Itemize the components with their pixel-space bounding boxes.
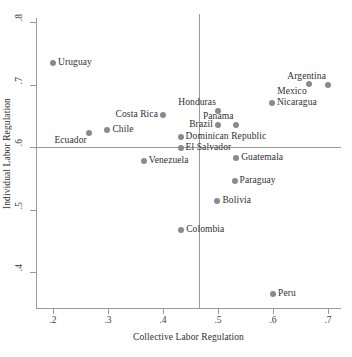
- x-axis-line: [36, 308, 341, 309]
- y-axis-title: Individual Labor Regulation: [0, 0, 14, 308]
- data-point[interactable]: [270, 291, 276, 297]
- data-point-label: Ecuador: [54, 135, 86, 145]
- data-point-label: Dominican Republic: [186, 131, 267, 141]
- x-tick-mark: [53, 309, 54, 314]
- data-point-label: Bolivia: [222, 195, 251, 205]
- data-point[interactable]: [50, 60, 56, 66]
- x-tick-label: .3: [98, 315, 118, 325]
- x-tick-mark: [108, 309, 109, 314]
- y-tick-label: .7: [14, 77, 30, 84]
- data-point[interactable]: [160, 112, 166, 118]
- y-tick-label: .4: [14, 264, 30, 271]
- x-tick-label: .6: [263, 315, 283, 325]
- x-tick-label: .7: [318, 315, 338, 325]
- y-tick-mark: [30, 272, 36, 273]
- data-point-label: Argentina: [287, 71, 326, 81]
- data-point-label: Uruguay: [58, 57, 92, 67]
- x-axis-title: Collective Labor Regulation: [36, 332, 341, 342]
- y-tick-label: .8: [14, 14, 30, 21]
- y-tick-mark: [30, 22, 36, 23]
- y-tick-mark: [30, 85, 36, 86]
- data-point-label: Honduras: [178, 97, 216, 107]
- data-point[interactable]: [178, 134, 184, 140]
- x-tick-mark: [273, 309, 274, 314]
- data-point-label: Nicaragua: [277, 97, 317, 107]
- x-tick-label: .2: [43, 315, 63, 325]
- data-point[interactable]: [214, 198, 220, 204]
- y-tick-label: .6: [14, 139, 30, 146]
- data-point[interactable]: [215, 122, 221, 128]
- data-point[interactable]: [232, 178, 238, 184]
- data-point-label: Mexico: [277, 86, 307, 96]
- data-point-label: Venezuela: [149, 155, 189, 165]
- scatter-plot: Individual Labor Regulation Collective L…: [0, 0, 352, 357]
- data-point[interactable]: [325, 82, 331, 88]
- y-tick-label: .5: [14, 202, 30, 209]
- data-point-label: Chile: [112, 124, 133, 134]
- vertical-reference-line: [199, 14, 200, 308]
- x-tick-mark: [163, 309, 164, 314]
- data-point-label: Paraguay: [240, 175, 276, 185]
- data-point-label: Peru: [278, 288, 296, 298]
- data-point-label: Brazil: [189, 119, 213, 129]
- data-point-label: Colombia: [186, 224, 224, 234]
- y-tick-mark: [30, 210, 36, 211]
- y-tick-mark: [30, 147, 36, 148]
- data-point[interactable]: [233, 122, 239, 128]
- data-point[interactable]: [178, 227, 184, 233]
- data-point[interactable]: [141, 158, 147, 164]
- x-tick-mark: [218, 309, 219, 314]
- data-point[interactable]: [104, 127, 110, 133]
- data-point[interactable]: [233, 155, 239, 161]
- x-tick-label: .5: [208, 315, 228, 325]
- data-point-label: Guatemala: [241, 152, 283, 162]
- x-tick-mark: [328, 309, 329, 314]
- x-tick-label: .4: [153, 315, 173, 325]
- data-point-label: El Salvador: [186, 142, 232, 152]
- data-point[interactable]: [178, 145, 184, 151]
- y-axis-line: [36, 18, 37, 308]
- data-point-label: Costa Rica: [116, 109, 158, 119]
- data-point[interactable]: [269, 100, 275, 106]
